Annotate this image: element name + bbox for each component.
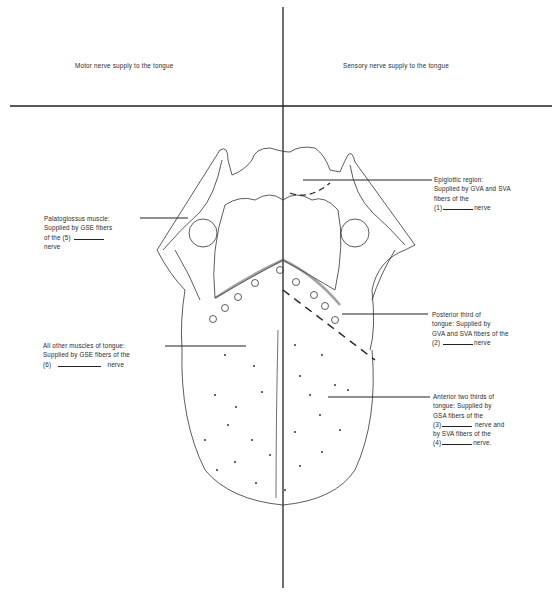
header-motor: Motor nerve supply to the tongue (75, 62, 173, 69)
answer-blank-5[interactable] (74, 239, 104, 240)
right-tonsil (341, 219, 369, 247)
label-epiglottic: Epiglottic region: Supplied by GVA and S… (434, 175, 511, 212)
label-posterior-third: Posterior third of tongue: Supplied by G… (432, 310, 509, 347)
answer-blank-6[interactable] (58, 366, 101, 367)
label-other-muscles: All other muscles of tongue: Supplied by… (43, 341, 130, 369)
answer-blank-1[interactable] (443, 209, 473, 210)
circumvallate-papillae (210, 267, 339, 324)
answer-blank-2[interactable] (443, 344, 473, 345)
left-tonsil (189, 219, 217, 247)
tongue-diagram (0, 0, 560, 593)
header-sensory: Sensory nerve supply to the tongue (343, 62, 449, 69)
answer-blank-3[interactable] (442, 426, 472, 427)
answer-blank-4[interactable] (442, 444, 472, 445)
label-anterior-two-thirds: Anterior two thirds of tongue: Supplied … (433, 392, 504, 448)
tongue-illustration (157, 147, 415, 505)
label-palatoglossus: Palatoglossus muscle: Supplied by GSE fi… (44, 214, 112, 251)
